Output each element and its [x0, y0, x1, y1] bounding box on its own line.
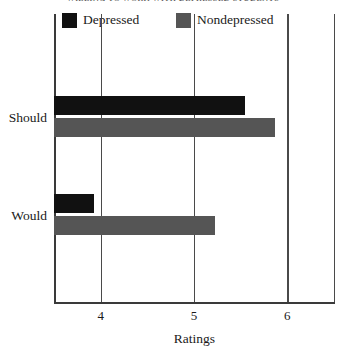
x-tick-6: 6 — [284, 309, 291, 322]
gridline-4 — [101, 14, 102, 302]
gridline-6.5 — [334, 14, 335, 302]
x-axis-title: Ratings — [54, 332, 335, 346]
gridline-5 — [194, 14, 195, 302]
gridline-6 — [287, 14, 288, 302]
bar-should-nondepressed — [54, 118, 275, 137]
plot-area: ShouldWould 456 — [54, 14, 334, 302]
category-label-should: Should — [9, 111, 47, 125]
category-label-would: Would — [11, 209, 47, 223]
chart-title: WILLING TO WORK WITH DEPRESSED STUDENTS — [0, 0, 346, 2]
x-tick-4: 4 — [97, 309, 104, 322]
x-axis-line — [54, 302, 335, 304]
y-axis-line — [54, 14, 56, 302]
bar-would-nondepressed — [54, 216, 215, 235]
x-tick-5: 5 — [191, 309, 198, 322]
bar-would-depressed — [54, 194, 94, 213]
bar-chart-figure: WILLING TO WORK WITH DEPRESSED STUDENTS … — [0, 0, 346, 352]
bar-should-depressed — [54, 96, 245, 115]
